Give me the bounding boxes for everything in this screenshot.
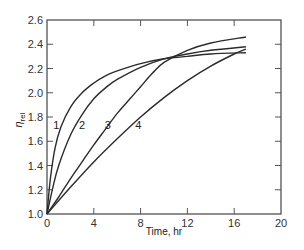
y-tick-label: 2.6 bbox=[28, 14, 43, 26]
y-tick-label: 2.0 bbox=[28, 87, 43, 99]
x-axis-title: Time, hr bbox=[146, 226, 183, 237]
y-axis-title: ηrel bbox=[12, 112, 27, 127]
curve-label-4: 4 bbox=[135, 119, 141, 131]
x-tick-label: 4 bbox=[91, 217, 97, 229]
curve-1 bbox=[47, 53, 246, 214]
y-tick-label: 1.4 bbox=[28, 160, 43, 172]
y-tick-label: 1.2 bbox=[28, 184, 43, 196]
curve-label-2: 2 bbox=[79, 119, 85, 131]
y-tick-label: 1.0 bbox=[28, 208, 43, 220]
svg-text:ηrel: ηrel bbox=[12, 112, 27, 127]
x-tick-label: 12 bbox=[181, 217, 193, 229]
curve-label-3: 3 bbox=[105, 119, 111, 131]
curve-label-1: 1 bbox=[53, 119, 59, 131]
data-curves bbox=[47, 37, 246, 214]
x-tick-label: 16 bbox=[228, 217, 240, 229]
y-axis-title-sub: rel bbox=[18, 112, 27, 121]
x-tick-label: 8 bbox=[138, 217, 144, 229]
x-tick-label: 0 bbox=[44, 217, 50, 229]
tick-labels: 0481216201.01.21.41.61.82.02.22.42.6 bbox=[28, 14, 287, 229]
line-chart: 0481216201.01.21.41.61.82.02.22.42.6 123… bbox=[0, 0, 304, 250]
y-tick-label: 2.2 bbox=[28, 63, 43, 75]
curve-4 bbox=[47, 49, 246, 214]
y-tick-label: 1.6 bbox=[28, 135, 43, 147]
y-tick-label: 1.8 bbox=[28, 111, 43, 123]
x-tick-label: 20 bbox=[275, 217, 287, 229]
curve-2 bbox=[47, 47, 246, 214]
y-tick-label: 2.4 bbox=[28, 38, 43, 50]
